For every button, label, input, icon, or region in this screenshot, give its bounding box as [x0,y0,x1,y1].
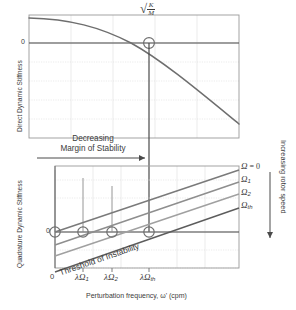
legend-omega-0-suffix: = 0 [248,162,261,171]
sqrt-km-label: √KM [140,1,155,17]
xtick-lambda-omega-th-base: λΩ [140,272,150,282]
xtick-lambda-omega-1-sub: 1 [85,276,88,282]
top-panel-grid [29,15,239,138]
diagram-canvas [0,0,296,310]
xtick-lambda-omega-2: λΩ2 [104,272,118,282]
legend-item-omega-1: Ω1 [241,174,251,184]
legend-omega-th-sub: th [248,204,253,210]
decreasing-margin-annotation: Decreasing Margin of Stability [37,134,149,154]
decreasing-margin-line1: Decreasing [72,134,113,143]
legend-omega-1-sub: 1 [248,178,251,184]
bottom-chart-zero-label: 0 [46,227,50,234]
legend-omega-2-sub: 2 [248,191,251,197]
radical-icon: √ [140,1,147,17]
figure-root: √KM Direct Dynamic Stiffness 0 Decreasin… [0,0,296,310]
decreasing-margin-line2: Margin of Stability [60,144,125,153]
legend-item-omega-0: Ω = 0 [241,161,260,171]
xtick-lambda-omega-th: λΩth [140,272,155,282]
xtick-lambda-omega-2-sub: 2 [114,276,117,282]
legend-item-omega-2: Ω2 [241,187,251,197]
xtick-lambda-omega-2-base: λΩ [104,272,114,282]
legend-item-omega-th: Ωth [241,200,253,210]
xtick-origin: 0 [50,272,54,281]
increasing-rotor-speed-label: Increasing rotor speed [279,140,288,214]
xtick-lambda-omega-1: λΩ1 [75,272,89,282]
bottom-chart-ylabel: Quadrature Dynamic Stiffness [16,180,23,268]
xtick-lambda-omega-1-base: λΩ [75,272,85,282]
top-chart-ylabel: Direct Dynamic Stiffness [16,60,23,132]
direct-stiffness-curve [29,18,239,124]
xtick-lambda-omega-th-sub: th [150,276,155,282]
top-chart-zero-label: 0 [21,38,25,45]
sqrt-denominator: M [147,10,155,17]
bottom-chart-xlabel: Perturbation frequency, ω' (cpm) [86,292,187,299]
